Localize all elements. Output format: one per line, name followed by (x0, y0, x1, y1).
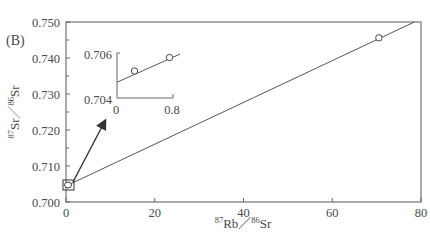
inset-xtick-left: 0 (113, 103, 119, 117)
data-points (376, 35, 382, 41)
y-axis-label: 87Sr／86Sr (6, 85, 22, 139)
y-tick-label: 0.730 (32, 88, 60, 102)
inset-data-points (131, 54, 172, 74)
x-tick-label: 0 (63, 206, 69, 220)
isochron-chart: (B) 0.7000.7100.7200.7300.7400.750 02040… (0, 0, 430, 235)
inset-ytick-bottom: 0.704 (84, 93, 113, 107)
x-tick-label: 60 (326, 206, 339, 220)
y-tick-label: 0.700 (32, 196, 60, 210)
y-tick-label: 0.720 (32, 124, 60, 138)
x-tick-label: 20 (149, 206, 162, 220)
y-tick-label: 0.740 (32, 52, 60, 66)
x-axis-label: 87Rb／86Sr (215, 215, 272, 231)
plot-frame (66, 22, 421, 202)
y-tick-label: 0.750 (32, 16, 60, 30)
inset-data-point (166, 54, 172, 60)
inset-plot: 0.706 0.704 0 0.8 (84, 48, 180, 117)
panel-label: (B) (6, 33, 25, 49)
origin-cluster-marker (65, 182, 72, 188)
inset-arrow (73, 121, 105, 182)
inset-axes (117, 53, 173, 98)
inset-data-point (131, 68, 137, 74)
y-tick-label: 0.710 (32, 160, 60, 174)
data-point (376, 35, 382, 41)
inset-xtick-right: 0.8 (164, 103, 180, 117)
isochron-line (70, 22, 414, 184)
x-tick-label: 80 (415, 206, 428, 220)
inset-ytick-top: 0.706 (84, 48, 112, 62)
